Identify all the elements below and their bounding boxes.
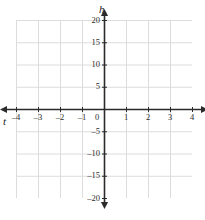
y-tick-label: 5 <box>0 82 100 91</box>
x-tick-label: –2 <box>50 113 70 122</box>
y-tick-label: 10 <box>0 60 100 69</box>
y-tick-label: –15 <box>0 171 100 180</box>
x-tick-label: 4 <box>182 113 202 122</box>
x-tick-label: 3 <box>160 113 180 122</box>
y-tick-label: 15 <box>0 38 100 47</box>
x-tick-label: 1 <box>116 113 136 122</box>
y-tick-label: –20 <box>0 194 100 203</box>
x-tick-label: –3 <box>28 113 48 122</box>
origin-zero-label: 0 <box>95 113 99 122</box>
y-tick-label: –5 <box>0 127 100 136</box>
y-tick-label: –10 <box>0 149 100 158</box>
x-tick-label: –1 <box>72 113 92 122</box>
x-tick-label: –4 <box>6 113 26 122</box>
x-tick-label: 2 <box>138 113 158 122</box>
coordinate-plane-figure: h t 2015105–5–10–15–20–4–3–2–112340 <box>0 0 205 220</box>
y-tick-label: 20 <box>0 16 100 25</box>
